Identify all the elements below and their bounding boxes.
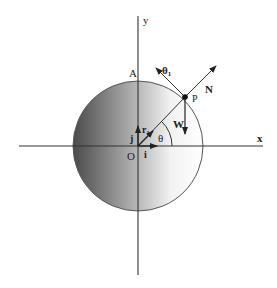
y-axis-label: y [143,14,149,26]
weight-force-label: W [173,118,184,130]
theta-angle-label: θ [158,132,163,144]
point-p-label: P [192,93,198,104]
sphere-diagram: y x O A P N W θ1 r1 j i θ [0,0,277,288]
normal-force-label: N [205,83,213,95]
particle-p [182,94,188,100]
origin-label: O [127,150,135,162]
i-label: i [144,149,147,160]
point-a-label: A [129,67,137,79]
x-axis-label: x [257,132,263,144]
theta1-label: θ1 [162,64,172,78]
j-label: j [129,133,133,144]
